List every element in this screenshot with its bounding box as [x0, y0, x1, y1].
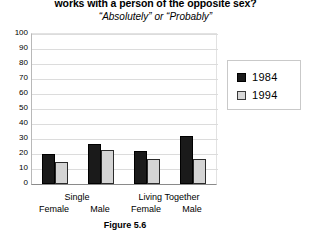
- y-axis-tick-80: 80: [2, 59, 28, 67]
- bar-1994-single-female: [55, 162, 68, 185]
- y-axis-tick-20: 20: [2, 149, 28, 157]
- x-axis-item-label: Female: [31, 204, 77, 214]
- bar-1994-living-together-female: [147, 159, 160, 185]
- chart-title-block: works with a person of the opposite sex?…: [0, 0, 311, 23]
- y-axis-tick-40: 40: [2, 119, 28, 127]
- y-axis-tick-labels: 1009080706050403020100: [0, 33, 28, 185]
- y-axis-tick-70: 70: [2, 74, 28, 82]
- x-axis-item-label: Male: [169, 204, 215, 214]
- bar-1984-living-together-female: [134, 151, 147, 184]
- light-square-icon: [237, 91, 246, 100]
- x-axis-labels: SingleLiving Together FemaleMaleFemaleMa…: [31, 186, 217, 216]
- figure-container: works with a person of the opposite sex?…: [0, 0, 311, 240]
- x-axis-item-label: Female: [123, 204, 169, 214]
- bar-1984-single-female: [42, 154, 55, 184]
- plot-wrapper: [31, 33, 217, 185]
- legend-label-1994: 1994: [252, 89, 278, 101]
- y-axis-tick-90: 90: [2, 44, 28, 52]
- chart-subtitle: “Absolutely” or “Probably”: [0, 10, 311, 23]
- bar-1994-living-together-male: [193, 159, 206, 185]
- bars-layer: [32, 34, 216, 184]
- chart-title: works with a person of the opposite sex?: [0, 0, 311, 9]
- y-axis-tick-30: 30: [2, 134, 28, 142]
- y-axis-tick-100: 100: [2, 29, 28, 37]
- filled-square-icon: [237, 73, 246, 82]
- legend-item-1984[interactable]: 1984: [237, 68, 300, 86]
- bar-1984-living-together-male: [180, 136, 193, 184]
- chart-legend: 19841994: [227, 60, 301, 110]
- x-axis-item-row: FemaleMaleFemaleMale: [31, 204, 217, 217]
- x-axis-group-label: Living Together: [123, 192, 215, 202]
- y-axis-tick-50: 50: [2, 104, 28, 112]
- y-axis-tick-10: 10: [2, 164, 28, 172]
- legend-label-1984: 1984: [252, 71, 278, 83]
- legend-item-1994[interactable]: 1994: [237, 86, 300, 104]
- y-axis-tick-0: 0: [2, 179, 28, 187]
- x-axis-item-label: Male: [77, 204, 123, 214]
- x-axis-group-label: Single: [31, 192, 123, 202]
- bar-1984-single-male: [88, 144, 101, 185]
- bar-1994-single-male: [101, 150, 114, 185]
- figure-caption: Figure 5.6: [0, 220, 250, 231]
- y-axis-tick-60: 60: [2, 89, 28, 97]
